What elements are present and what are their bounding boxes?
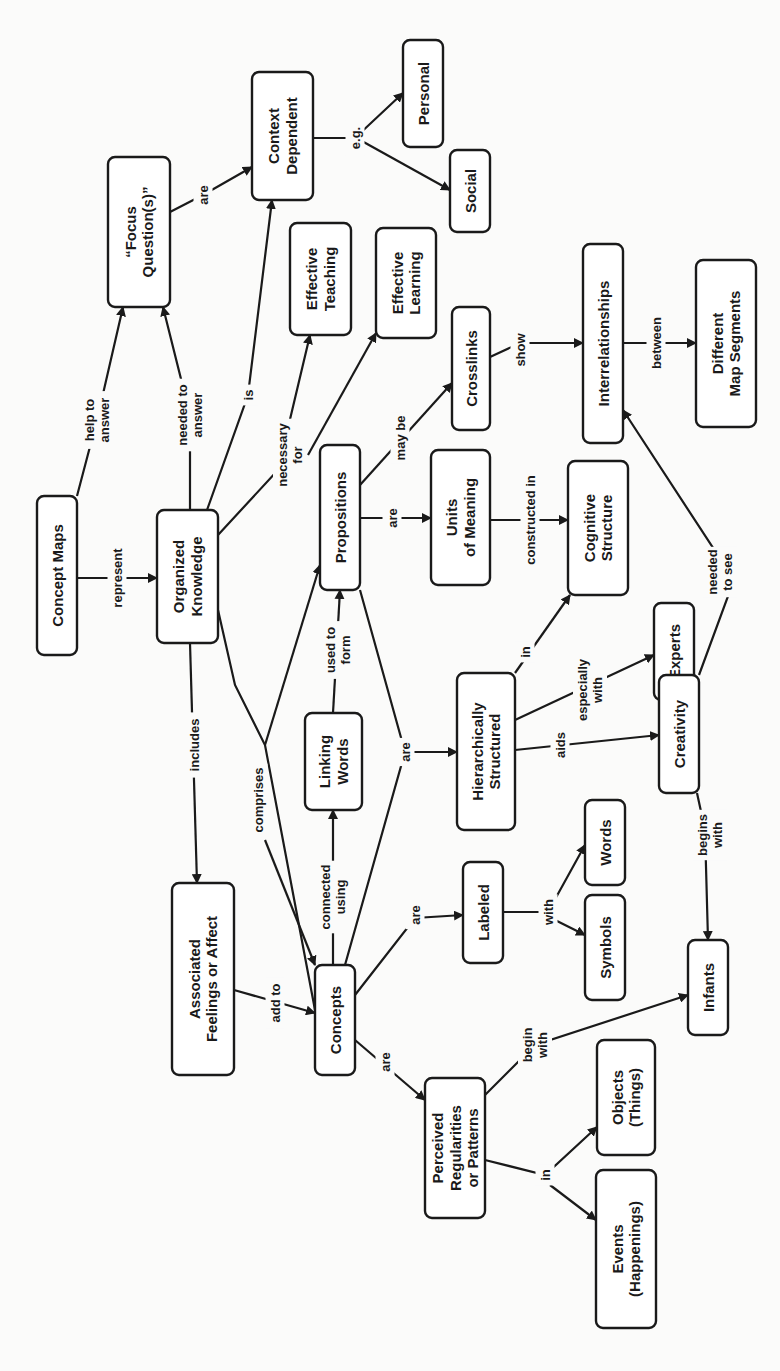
link-line [490,343,583,357]
link-line [308,333,376,455]
link-label-text: between [649,317,664,369]
link-label: aids [551,727,570,763]
link-label: add to [266,978,285,1028]
node-label: Events [609,1224,626,1273]
node-label: Creativity [671,699,688,768]
concept-node-objects[interactable]: Objects(Things) [597,1040,655,1155]
node-label: Cognitive [581,494,598,562]
node-label: Personal [415,62,432,125]
concept-node-infants[interactable]: Infants [688,940,728,1035]
node-label: Structure [598,495,615,562]
concept-node-words[interactable]: Words [585,800,625,885]
link-label-text: form [338,636,353,665]
link-label-text: constructed in [523,475,538,565]
concept-node-crosslinks[interactable]: Crosslinks [452,307,490,430]
link-label: are [406,901,425,929]
concept-node-propositions[interactable]: Propositions [320,445,360,590]
concept-node-different-map-segments[interactable]: DifferentMap Segments [696,260,756,427]
link-line [515,735,659,750]
node-label: Crosslinks [463,330,480,407]
node-label: Perceived [429,1113,446,1184]
concept-node-concept-maps[interactable]: Concept Maps [37,496,77,655]
link-label: neededto see [703,547,737,597]
concept-map-canvas: representhelp toanswerneeded toanswerisa… [0,0,780,1371]
concept-node-organized-knowledge[interactable]: OrganizedKnowledge [157,510,218,643]
node-label: Words [334,738,351,784]
link-label-text: necessary [275,422,290,486]
link-label-text: needed [705,549,720,595]
link-label: necessaryfor [273,419,307,492]
link-label-text: add to [268,983,283,1022]
concept-node-context-dependent[interactable]: ContextDependent [252,72,313,200]
node-label: Effective [303,248,320,311]
concept-node-perceived-regularities[interactable]: PerceivedRegularitiesor Patterns [425,1078,485,1218]
concept-node-hierarchically-structured[interactable]: HierarchicallyStructured [457,673,515,830]
concept-node-creativity[interactable]: Creativity [659,675,699,793]
concept-node-concepts[interactable]: Concepts [315,965,355,1075]
concept-node-units-of-meaning[interactable]: Unitsof Meaning [431,450,490,585]
link-label-text: are [196,185,211,205]
link-label-text: with [710,822,725,849]
link-label: beginwith [518,1024,552,1067]
node-label: Learning [406,251,423,314]
link-label-text: begin [520,1028,535,1063]
node-label: (Things) [626,1068,643,1127]
concept-node-personal[interactable]: Personal [403,40,443,147]
node-label: Hierarchically [469,702,486,801]
node-label: Map Segments [726,291,743,397]
link-label-text: e.g. [348,127,363,149]
concept-node-cognitive-structure[interactable]: CognitiveStructure [568,461,628,595]
link-line [550,1185,596,1220]
link-label-text: in [538,1169,553,1181]
link-label: e.g. [346,120,365,156]
node-label: Labeled [475,884,492,941]
node-label: Knowledge [188,536,205,616]
link-label-text: are [385,508,400,528]
link-label: represent [108,542,127,615]
link-label: in [536,1165,555,1186]
node-label: Linking [316,735,333,788]
link-label-text: used to [323,627,338,673]
node-label: Interrelationships [595,281,612,407]
link-line [265,840,315,965]
link-label-text: are [398,742,413,762]
node-label: Feelings or Affect [203,916,220,1042]
node-label: Structured [486,714,503,790]
node-label: Regularities [447,1105,464,1191]
concept-node-interrelationships[interactable]: Interrelationships [583,244,623,443]
node-label: of Meaning [461,478,478,557]
link-line [207,200,272,510]
link-label: in [516,642,535,663]
concept-node-effective-teaching[interactable]: EffectiveTeaching [290,223,351,335]
concept-node-symbols[interactable]: Symbols [585,895,625,1000]
link-label-text: using [333,880,348,915]
concept-node-focus-questions[interactable]: “FocusQuestion(s)” [108,157,170,307]
concept-node-labeled[interactable]: Labeled [463,862,503,963]
node-label: Words [597,819,614,865]
link-label: used toform [321,621,355,679]
link-label-text: especially [575,658,590,721]
link-label: are [383,504,402,532]
link-label: is [239,385,258,406]
concept-node-social[interactable]: Social [450,150,490,232]
link-label: are [396,738,415,766]
node-label: “Focus [122,206,139,258]
concept-node-events[interactable]: Events(Happenings) [596,1170,656,1328]
link-label-text: includes [187,719,202,772]
concept-node-associated-feelings[interactable]: AssociatedFeelings or Affect [172,883,234,1075]
link-label-text: with [541,899,556,926]
concept-node-effective-learning[interactable]: EffectiveLearning [376,228,436,338]
link-label: beginswith [693,810,727,860]
link-label: especiallywith [573,650,607,730]
link-label-text: connected [318,864,333,929]
node-label: (Happenings) [626,1201,643,1297]
node-label: Objects [609,1070,626,1125]
link-line [485,995,688,1095]
node-label: Infants [700,963,717,1012]
node-label: Social [462,169,479,213]
node-label: Concept Maps [49,524,66,627]
link-line [555,920,585,935]
link-label-text: in [518,646,533,658]
link-label: comprises [249,764,268,837]
concept-node-linking-words[interactable]: LinkingWords [305,713,362,810]
